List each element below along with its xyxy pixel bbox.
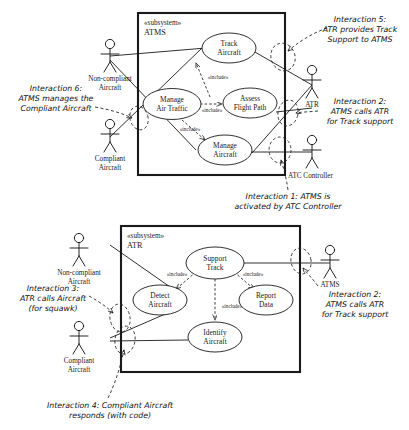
- use-case-label-line1: Manage: [213, 141, 238, 150]
- subsystem-name-atms: ATMS: [144, 28, 166, 37]
- note-line-2: ATR provides Track: [322, 25, 398, 34]
- use-case-label-line2: Aircraft: [213, 150, 237, 159]
- use-case-report-data[interactable]: Report Data: [239, 285, 293, 315]
- use-case-label-line2: Flight Path: [234, 103, 267, 112]
- actor-atc-controller-top[interactable]: ATC Controller: [288, 135, 334, 180]
- use-case-track-aircraft[interactable]: Track Aircraft: [202, 33, 256, 63]
- actor-leg-left: [73, 344, 79, 354]
- include-label-assess: «include»: [202, 107, 223, 113]
- note-line-2: activated by ATC Controller: [235, 202, 343, 211]
- assoc-noncompliant-track: [110, 48, 206, 56]
- include-label-managecraft: «include»: [180, 126, 201, 132]
- note-line-3: Support to ATMS: [328, 35, 393, 44]
- note-interaction-2-bottom: Interaction 2: ATMS calls ATR for Track …: [322, 290, 389, 319]
- use-case-identify-aircraft[interactable]: Identify Aircraft: [188, 322, 242, 352]
- subsystem-stereotype-atr: «subsystem»: [127, 232, 165, 240]
- actor-leg-left: [324, 268, 330, 278]
- use-case-label-line2: Aircraft: [217, 48, 241, 57]
- note-line-2: responds (with code): [69, 411, 151, 420]
- use-case-label-line2: Air Traffic: [156, 104, 188, 113]
- use-case-label-line1: Assess: [240, 94, 260, 103]
- use-case-label-line2: Data: [259, 300, 274, 309]
- note-interaction-3: Interaction 3: ATR calls Aircraft (for s…: [19, 284, 87, 313]
- use-case-label-line2: Aircraft: [203, 337, 227, 346]
- note-line-1: Interaction 4: Compliant Aircraft: [47, 401, 174, 410]
- actor-leg-left: [306, 88, 312, 98]
- note-line-2: ATR calls Aircraft: [19, 294, 87, 303]
- use-case-assess-flight-path[interactable]: Assess Flight Path: [223, 88, 277, 118]
- actor-label-line1: ATC Controller: [288, 172, 334, 180]
- actor-leg-right: [312, 88, 318, 98]
- actor-leg-left: [104, 62, 110, 72]
- note-line-1: Interaction 3:: [27, 284, 79, 293]
- leader-interaction-2-top: [296, 111, 318, 113]
- actor-label-line2: Aircraft: [68, 366, 91, 374]
- actor-leg-right: [330, 268, 336, 278]
- use-case-manage-air-traffic[interactable]: Manage Air Traffic: [143, 89, 201, 120]
- actor-label-line1: Compliant: [64, 357, 94, 365]
- note-line-1: Interaction 2:: [334, 97, 386, 106]
- note-line-3: for Track support: [322, 310, 389, 319]
- actor-label-line1: Compliant: [95, 155, 125, 163]
- actor-non-compliant-aircraft-bottom[interactable]: Non-compliant Aircraft: [57, 233, 101, 285]
- actor-compliant-aircraft-bottom[interactable]: Compliant Aircraft: [64, 321, 94, 373]
- actor-leg-left: [104, 142, 110, 152]
- use-case-label-line1: Track: [221, 39, 238, 48]
- use-case-label-line1: Identify: [203, 328, 227, 337]
- note-line-1: Interaction 2:: [329, 290, 381, 299]
- note-interaction-2-top: Interaction 2: ATMS calls ATR for Track …: [327, 97, 394, 126]
- actor-atr-top[interactable]: ATR: [303, 65, 321, 109]
- actor-label-line1: Non-compliant: [57, 269, 101, 277]
- actor-leg-right: [79, 344, 85, 354]
- note-interaction-1: Interaction 1: ATMS is activated by ATC …: [235, 192, 343, 211]
- actor-head: [74, 233, 83, 242]
- highlight-circle-interaction-1: [269, 137, 291, 163]
- note-line-3: Compliant Aircraft: [20, 104, 92, 113]
- use-case-support-track[interactable]: Support Track: [186, 247, 244, 279]
- actor-label-line2: Aircraft: [99, 84, 122, 92]
- include-mat-to-track: [196, 63, 210, 97]
- subsystem-stereotype-atms: «subsystem»: [144, 19, 182, 27]
- include-label-report: «include»: [243, 271, 264, 277]
- actor-leg-left: [73, 256, 79, 266]
- actor-atms-bottom[interactable]: ATMS: [320, 245, 339, 289]
- actor-leg-right: [312, 158, 318, 168]
- use-case-label-line2: Track: [207, 263, 224, 272]
- use-case-label-line2: Aircraft: [148, 300, 172, 309]
- use-case-manage-aircraft[interactable]: Manage Aircraft: [198, 135, 252, 165]
- actor-head: [307, 135, 316, 144]
- leader-interaction-3: [89, 296, 113, 313]
- actor-label-line2: Aircraft: [99, 164, 122, 172]
- leader-interaction-5: [288, 28, 327, 51]
- assoc-atr-track: [248, 48, 312, 85]
- highlight-circle-interaction-5: [267, 40, 298, 74]
- actor-label-line1: Non-compliant: [88, 75, 132, 83]
- note-interaction-6: Interaction 6: ATMS manages the Complian…: [18, 84, 94, 113]
- actor-leg-right: [110, 142, 116, 152]
- actor-label-line1: ATMS: [320, 281, 339, 289]
- leader-interaction-2-bottom: [303, 268, 318, 286]
- note-line-2: ATMS calls ATR: [330, 107, 390, 116]
- note-line-1: Interaction 5:: [334, 15, 386, 24]
- note-line-1: Interaction 6:: [30, 84, 82, 93]
- actor-head: [325, 245, 334, 254]
- use-case-label-line1: Detect: [150, 291, 170, 300]
- note-line-3: (for squawk): [29, 304, 78, 313]
- note-line-1: Interaction 1: ATMS is: [246, 192, 331, 201]
- use-case-label-line1: Manage: [160, 95, 185, 104]
- actor-head: [74, 321, 83, 330]
- note-line-2: ATMS calls ATR: [325, 300, 385, 309]
- highlight-circle-interaction-4: [113, 324, 138, 355]
- use-case-label-line1: Report: [256, 291, 277, 300]
- use-case-detect-aircraft[interactable]: Detect Aircraft: [133, 285, 187, 315]
- actor-head: [105, 39, 114, 48]
- note-interaction-5: Interaction 5: ATR provides Track Suppor…: [322, 15, 398, 44]
- actor-label-line1: ATR: [305, 101, 319, 109]
- note-interaction-4: Interaction 4: Compliant Aircraft respon…: [47, 401, 174, 420]
- actor-non-compliant-aircraft-top[interactable]: Non-compliant Aircraft: [88, 39, 132, 91]
- actor-head: [105, 119, 114, 128]
- actor-leg-right: [79, 256, 85, 266]
- include-label-track: «include»: [208, 74, 229, 80]
- note-line-2: ATMS manages the: [18, 94, 94, 103]
- use-case-label-line1: Support: [203, 254, 227, 263]
